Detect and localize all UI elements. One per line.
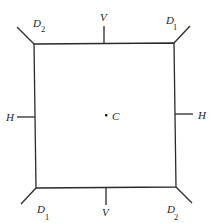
label-top-left-main: D: [32, 17, 41, 29]
d2-axis-tick-bottom-right: [176, 187, 192, 203]
center-point: [105, 114, 107, 116]
label-right-h: H: [197, 109, 207, 121]
label-top-v: V: [100, 11, 108, 23]
label-top-right-sub: 1: [173, 22, 177, 32]
label-bottom-v: V: [102, 206, 110, 218]
label-bottom-left-main: D: [36, 203, 45, 215]
label-bottom-right-sub: 2: [174, 212, 178, 222]
d1-axis-tick-bottom-left: [21, 188, 36, 204]
center-label: C: [112, 110, 120, 122]
square-symmetry-diagram: C D 2 D 1 V H H D 1 V D 2: [0, 0, 211, 223]
label-left-h: H: [5, 111, 15, 123]
label-bottom-left-sub: 1: [45, 212, 49, 222]
label-top-left-sub: 2: [41, 24, 45, 34]
d2-axis-tick-top-left: [17, 27, 34, 44]
